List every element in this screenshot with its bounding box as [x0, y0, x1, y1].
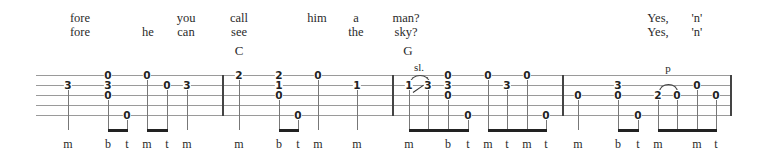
chord-symbol: C — [235, 43, 244, 59]
note-stem — [448, 98, 449, 130]
lyric-word: you — [177, 12, 196, 25]
note-stem — [239, 78, 240, 130]
finger-label: m — [692, 137, 701, 152]
lyric-word: sky? — [395, 26, 418, 39]
tab-string-1 — [36, 75, 731, 76]
fret-number: 0 — [464, 110, 472, 120]
note-stem — [279, 98, 280, 130]
fret-number: 0 — [143, 70, 151, 80]
barline — [222, 75, 224, 116]
lyric-word: call — [230, 12, 248, 25]
finger-label: m — [653, 137, 662, 152]
note-stem — [409, 88, 410, 130]
fret-number: 0 — [314, 70, 322, 80]
note-stem — [68, 88, 69, 130]
barline-end — [730, 75, 732, 116]
fret-number: 0 — [484, 70, 492, 80]
finger-label: t — [466, 137, 469, 152]
fret-number: 0 — [574, 90, 582, 100]
fret-number: 0 — [523, 70, 531, 80]
note-stem — [677, 98, 678, 130]
finger-label: b — [276, 137, 282, 152]
finger-label: t — [544, 137, 547, 152]
note-stem — [527, 78, 528, 130]
finger-label: t — [165, 137, 168, 152]
note-stem — [578, 98, 579, 130]
finger-label: t — [296, 137, 299, 152]
lyric-word: him — [307, 12, 326, 25]
finger-label: t — [505, 137, 508, 152]
finger-label: m — [522, 137, 531, 152]
lyric-word: fore — [70, 26, 90, 39]
finger-label: m — [63, 137, 72, 152]
fret-number: 0 — [104, 90, 112, 100]
tab-string-2 — [36, 85, 731, 86]
lyric-word: Yes, — [647, 12, 668, 25]
lyric-word: Yes, — [647, 26, 668, 39]
lyric-word: fore — [70, 12, 90, 25]
technique-mark: sl. — [414, 61, 424, 73]
note-stem — [428, 88, 429, 130]
fret-number: 0 — [673, 90, 681, 100]
note-stem — [318, 78, 319, 130]
tab-string-5 — [36, 115, 731, 116]
lyric-word: see — [231, 26, 247, 39]
fret-number: 3 — [183, 80, 191, 90]
fret-number: 1 — [405, 80, 413, 90]
fret-number: 0 — [275, 90, 283, 100]
finger-label: b — [105, 137, 111, 152]
finger-label: t — [714, 137, 717, 152]
fret-number: 3 — [64, 80, 72, 90]
fret-number: 0 — [163, 80, 171, 90]
note-stem — [147, 78, 148, 130]
note-stem — [488, 78, 489, 130]
fret-number: 1 — [353, 80, 361, 90]
beam — [488, 129, 547, 132]
beam — [279, 129, 299, 132]
lyric-word: a — [353, 12, 359, 25]
finger-label: t — [636, 137, 639, 152]
note-stem — [108, 98, 109, 130]
fret-number: 0 — [712, 90, 720, 100]
note-stem — [357, 88, 358, 130]
lyric-word: the — [348, 26, 363, 39]
fret-number: 2 — [654, 90, 662, 100]
finger-label: m — [234, 137, 243, 152]
finger-label: m — [142, 137, 151, 152]
technique-mark: p — [665, 62, 671, 74]
fret-number: 0 — [444, 90, 452, 100]
lyric-word: man? — [392, 12, 419, 25]
beam — [108, 129, 128, 132]
tab-string-4 — [36, 105, 731, 106]
fret-number: 0 — [542, 110, 550, 120]
fret-number: 3 — [424, 80, 432, 90]
finger-label: b — [615, 137, 621, 152]
barline — [392, 75, 394, 116]
fret-number: 0 — [634, 110, 642, 120]
note-stem — [618, 98, 619, 130]
finger-label: m — [573, 137, 582, 152]
fret-number: 2 — [235, 70, 243, 80]
note-stem — [187, 88, 188, 130]
note-stem — [167, 88, 168, 130]
fret-number: 0 — [614, 90, 622, 100]
beam — [658, 129, 717, 132]
finger-label: b — [445, 137, 451, 152]
note-stem — [507, 88, 508, 130]
finger-label: m — [352, 137, 361, 152]
note-stem — [716, 98, 717, 130]
note-stem — [697, 88, 698, 130]
beam — [147, 129, 168, 132]
note-stem — [658, 98, 659, 130]
beam — [409, 129, 469, 132]
finger-label: m — [313, 137, 322, 152]
lyric-word: can — [177, 26, 194, 39]
tab-string-3 — [36, 95, 731, 96]
beam — [618, 129, 639, 132]
lyric-word: he — [142, 26, 154, 39]
finger-label: m — [483, 137, 492, 152]
finger-label: t — [125, 137, 128, 152]
lyric-word: 'n' — [692, 12, 703, 25]
finger-label: m — [404, 137, 413, 152]
fret-number: 0 — [294, 110, 302, 120]
